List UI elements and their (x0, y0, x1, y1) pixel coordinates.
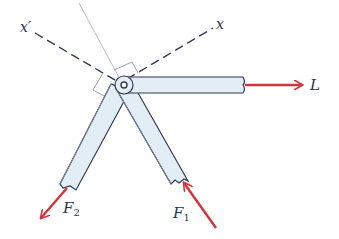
label-l: L (309, 76, 320, 94)
x-axis (127, 28, 213, 79)
pin-joint (115, 76, 133, 94)
pin-icon (121, 82, 127, 88)
link-f1 (118, 84, 188, 184)
label-x: x (216, 16, 224, 32)
link-l (124, 77, 245, 93)
label-f2: F2 (62, 199, 80, 218)
diagram-canvas: x′ x L F2 F1 (0, 0, 339, 239)
link-f2 (60, 84, 128, 190)
label-f1: F1 (172, 204, 190, 223)
label-x-prime: x′ (20, 19, 32, 35)
x-prime-axis (35, 33, 120, 83)
force-diagram: x′ x L F2 F1 (0, 0, 339, 239)
